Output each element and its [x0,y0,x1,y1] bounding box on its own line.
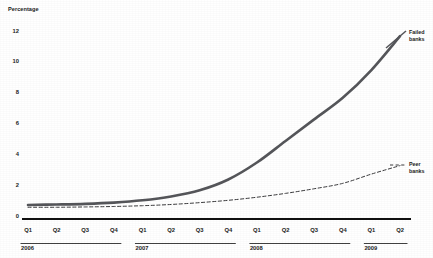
series-layer [28,36,400,207]
x-tick-label-quarter: Q4 [106,228,122,234]
y-tick-label: 8 [7,90,19,96]
x-tick-label-quarter: Q2 [49,228,65,234]
x-tick-label-quarter: Q1 [135,228,151,234]
x-tick-label-quarter: Q1 [249,228,265,234]
x-tick-label-quarter: Q2 [278,228,294,234]
y-tick-label: 4 [7,152,19,158]
y-tick-label: 0 [7,214,19,220]
x-tick-label-quarter: Q3 [77,228,93,234]
x-tick-label-quarter: Q2 [163,228,179,234]
y-axis-title: Percentage [8,7,39,13]
x-axis-year-label: 2006 [21,246,34,252]
series-line-failed-banks [28,36,400,205]
x-axis-year-label: 2007 [136,246,149,252]
legend-label-peer-banks: Peer banks [409,161,425,174]
legend-label-failed-banks-line1: Failed [409,29,425,36]
x-tick-label-quarter: Q2 [392,228,408,234]
legend-label-peer-banks-line2: banks [409,168,425,175]
x-axis-year-label: 2009 [364,246,377,252]
x-tick-label-quarter: Q4 [335,228,351,234]
y-tick-label: 6 [7,121,19,127]
x-tick-label-quarter: Q1 [20,228,36,234]
x-tick-label-quarter: Q3 [192,228,208,234]
y-tick-label: 12 [7,29,19,35]
legend-label-peer-banks-line1: Peer [409,161,425,168]
y-tick-label: 2 [7,183,19,189]
legend-label-failed-banks: Failed banks [409,29,425,42]
x-tick-label-quarter: Q3 [306,228,322,234]
x-tick-label-quarter: Q1 [363,228,379,234]
legend-leader-failed-banks [386,31,406,48]
x-axis-year-label: 2008 [250,246,263,252]
chart-container: Percentage 024681012 Q1Q2Q3Q4Q1Q2Q3Q4Q1Q… [0,0,433,258]
x-tick-label-quarter: Q4 [220,228,236,234]
chart-plot-area [0,0,433,258]
y-tick-label: 10 [7,59,19,65]
legend-label-failed-banks-line2: banks [409,36,425,43]
